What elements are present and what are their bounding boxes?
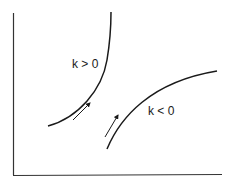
arrow-k-negative-icon [105,115,118,137]
label-k-positive: k > 0 [72,57,98,71]
x-axis [13,175,222,176]
label-k-negative: k < 0 [148,104,174,118]
diagram-svg [0,0,232,184]
diagram-canvas: k > 0 k < 0 [0,0,232,184]
